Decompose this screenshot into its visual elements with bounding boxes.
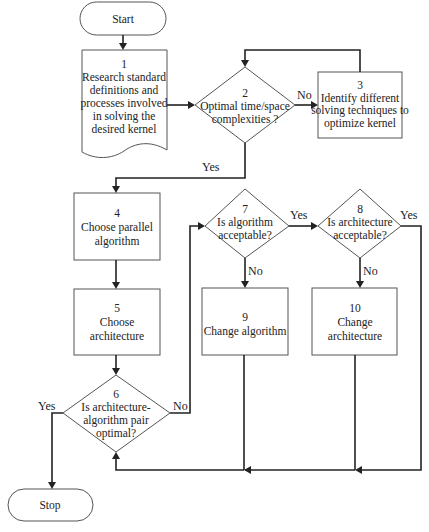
edge-return-to-6 [116,458,244,470]
arrowhead [112,186,120,193]
node-n8-line: Is architecture [327,216,392,228]
arrowhead [241,281,249,288]
node-start-line: Start [112,13,135,25]
arrowhead [188,101,195,109]
arrowhead [311,222,318,230]
arrowhead [356,281,364,288]
node-n3-line: 3 [357,79,363,91]
node-n2-line: complexities ? [212,113,279,126]
arrowhead [355,466,362,474]
node-n9-line: 9 [242,311,248,323]
edge-label-n6-no: No [173,399,188,413]
node-n7-line: Is algorithm [217,216,273,229]
edge-label-n7-no: No [248,264,263,278]
node-n10-line: architecture [328,330,382,342]
node-n1-line: in solving the [93,110,156,123]
node-n6-line: algorithm pair [83,414,149,427]
arrowhead [112,452,120,459]
node-n8-line: acceptable? [333,229,387,242]
edge-2-to-4 [116,143,245,187]
node-n10-line: 10 [349,302,361,314]
edge-label-n7-yes: Yes [290,208,308,222]
node-n1-line: definitions and [90,84,159,96]
node-n9-line: Change algorithm [204,325,287,338]
node-n4-line: Choose parallel [81,221,153,234]
node-n10-line: Change [337,316,372,329]
arrowhead [112,282,120,289]
node-n6-line: optimal? [96,427,136,440]
node-n7-line: acceptable? [218,229,272,242]
arrowhead [198,222,205,230]
arrowhead [112,368,120,375]
arrowhead [244,466,251,474]
arrowhead [241,60,249,67]
edge-label-n2-no: No [297,88,312,102]
edge-6-to-7 [170,226,199,413]
node-n5-line: Choose [100,316,135,328]
node-n4-line: algorithm [95,235,140,248]
node-n5-line: 5 [114,302,120,314]
node-n1-line: Research standard [82,71,166,83]
node-n4-line: 4 [114,207,120,219]
node-n5-line: architecture [90,330,144,342]
edge-label-n8-yes: Yes [400,208,418,222]
node-n2-line: Optimal time/space [200,100,290,113]
node-n2-line: 2 [242,87,248,99]
node-n1-line: desired kernel [92,123,157,135]
edge-3-to-2 [245,50,360,72]
node-stop-line: Stop [39,499,60,512]
node-n7-line: 7 [242,203,248,215]
node-n1-line: processes involved [80,97,167,110]
edge-6-to-stop [52,413,63,483]
edge-label-n8-no: No [363,264,378,278]
edge-label-n2-yes: Yes [202,160,220,174]
node-n1-line: 1 [121,58,127,70]
node-n3-line: optimize kernel [324,117,396,130]
node-start-text: Start [112,13,135,25]
node-n8-line: 8 [357,203,363,215]
arrowhead [119,43,127,50]
flowchart: Start1Research standarddefinitions andpr… [0,0,429,532]
node-n3-line: solving techniques to [311,104,409,117]
node-stop-text: Stop [39,499,60,512]
node-n3-line: Identify different [321,92,400,105]
edge-label-n6-yes: Yes [38,399,56,413]
arrowhead [48,482,56,489]
node-n6-line: Is architecture- [81,401,150,413]
node-n6-line: 6 [113,388,119,400]
